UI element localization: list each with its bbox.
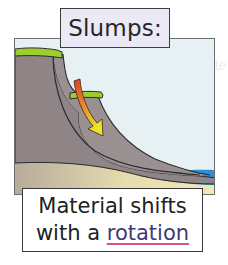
caption-box: Material shifts with a rotation [22, 188, 203, 252]
slump-diagram [15, 39, 215, 195]
slump-diagram-panel [14, 38, 215, 195]
caption-line-2: with a rotation [36, 220, 189, 247]
caption-line-1: Material shifts [38, 193, 186, 220]
slump-block-grass [70, 91, 103, 99]
keyword-rotation: rotation [107, 221, 189, 245]
caption-prefix: with a [36, 221, 107, 245]
diagram-title: Slumps: [68, 15, 162, 41]
title-box: Slumps: [60, 8, 170, 48]
